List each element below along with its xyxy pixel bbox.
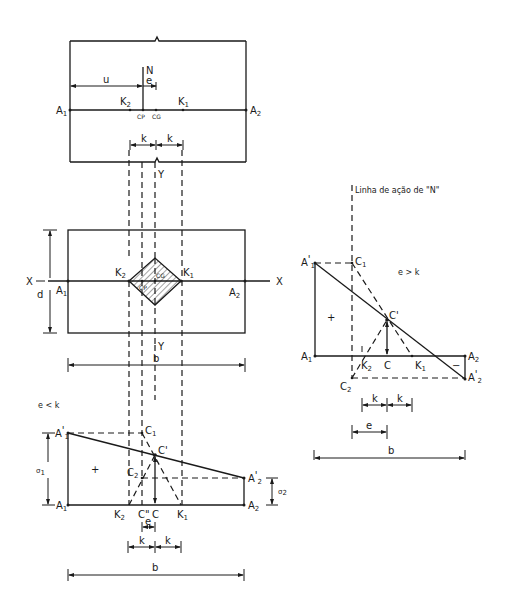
label-A2-top: A2 (250, 105, 261, 118)
svg-text:K2: K2 (115, 267, 126, 280)
svg-text:K1: K1 (415, 360, 426, 373)
caption-line-of-action: Linha de ação de "N" (355, 186, 439, 195)
svg-text:A'1: A'1 (55, 425, 69, 441)
svg-text:X: X (26, 276, 33, 287)
svg-text:K2: K2 (361, 360, 372, 373)
top-plan-view: N u e A1 A2 K2 K1 CP CG k k (56, 37, 261, 162)
svg-text:K1: K1 (177, 509, 188, 522)
label-K1-top: K1 (178, 96, 189, 109)
svg-text:A2: A2 (468, 351, 479, 364)
svg-text:C: C (384, 360, 391, 371)
svg-text:k: k (167, 133, 173, 144)
label-CP: CP (137, 113, 145, 120)
svg-text:C': C' (158, 445, 168, 456)
svg-text:C': C' (389, 310, 399, 321)
svg-text:A2: A2 (229, 287, 240, 300)
svg-text:A'2: A'2 (248, 470, 262, 486)
svg-text:k: k (139, 535, 145, 546)
svg-text:C1: C1 (145, 425, 156, 438)
svg-text:Y: Y (157, 341, 165, 352)
label-K2-top: K2 (120, 96, 131, 109)
svg-text:C1: C1 (355, 256, 366, 269)
svg-text:k: k (397, 393, 403, 404)
label-e-top: e (146, 75, 152, 86)
svg-text:K1: K1 (183, 267, 194, 280)
svg-text:σ1: σ1 (36, 467, 45, 477)
label-u: u (103, 74, 109, 85)
label-A1-top: A1 (56, 105, 67, 118)
svg-text:A'1: A'1 (301, 254, 315, 270)
svg-text:e: e (145, 516, 151, 527)
svg-text:k: k (141, 133, 147, 144)
svg-text:C: C (152, 509, 159, 520)
svg-text:A'2: A'2 (468, 369, 482, 385)
svg-text:+: + (327, 312, 335, 323)
stress-diagram-e-greater-k: Linha de ação de "N" e > k A'1 A1 C1 C' … (301, 185, 482, 460)
svg-text:A1: A1 (301, 351, 312, 364)
svg-text:A1: A1 (56, 285, 67, 298)
caption-e-less-k: e < k (38, 401, 60, 410)
caption-e-greater-k: e > k (398, 268, 420, 277)
svg-text:C2: C2 (127, 467, 138, 480)
svg-text:−: − (452, 360, 460, 371)
svg-text:b: b (153, 353, 159, 364)
svg-text:d: d (37, 289, 43, 300)
svg-text:e: e (366, 420, 372, 431)
svg-text:CG: CG (156, 272, 165, 279)
svg-text:+: + (91, 464, 99, 475)
svg-text:k: k (165, 535, 171, 546)
svg-text:k: k (372, 393, 378, 404)
svg-text:X: X (276, 276, 283, 287)
svg-text:b: b (388, 445, 394, 456)
svg-text:K2: K2 (114, 509, 125, 522)
svg-text:CP: CP (139, 284, 147, 291)
eccentric-load-stress-diagram: N u e A1 A2 K2 K1 CP CG k k Y (0, 0, 508, 616)
label-CG: CG (152, 113, 161, 120)
svg-text:C2: C2 (340, 381, 351, 394)
svg-text:A1: A1 (56, 500, 67, 513)
projection-lines-top: Y (129, 150, 182, 270)
svg-text:Y: Y (157, 169, 165, 180)
svg-text:b: b (152, 562, 158, 573)
svg-text:σ2: σ2 (278, 488, 287, 497)
stress-diagram-e-less-k: e < k A'1 A1 A'2 A2 C1 C' C2 K2 C" C K1 … (36, 400, 287, 581)
svg-text:A2: A2 (248, 500, 259, 513)
